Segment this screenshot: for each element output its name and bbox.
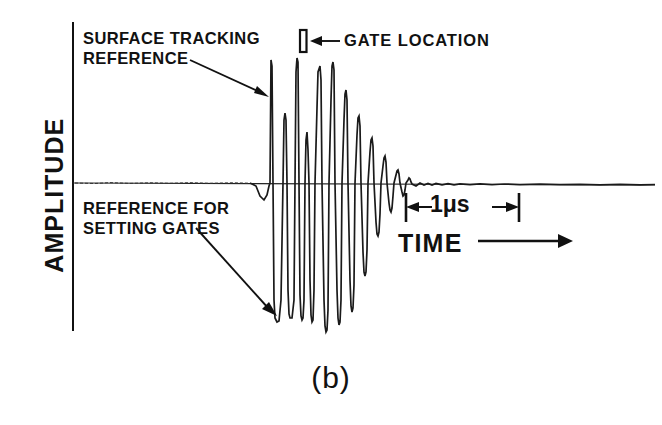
gate-marker-icon bbox=[300, 30, 307, 52]
time-axis-label: TIME bbox=[398, 228, 463, 259]
figure-caption: (b) bbox=[0, 360, 662, 397]
time-direction-arrow bbox=[478, 234, 573, 248]
reference-gates-arrow bbox=[196, 228, 277, 316]
annotation-gate-location: GATE LOCATION bbox=[344, 30, 490, 50]
annotation-surface-tracking-reference: SURFACE TRACKING REFERENCE bbox=[83, 28, 260, 68]
figure-container: AMPLITUDE SURFACE TRACKING REFERENCE GAT… bbox=[0, 0, 662, 425]
scale-bar-label: 1μs bbox=[430, 190, 470, 218]
annotation-reference-for-setting-gates: REFERENCE FOR SETTING GATES bbox=[83, 198, 229, 238]
gate-location-arrow bbox=[310, 36, 340, 46]
y-axis-label: AMPLITUDE bbox=[39, 85, 70, 305]
